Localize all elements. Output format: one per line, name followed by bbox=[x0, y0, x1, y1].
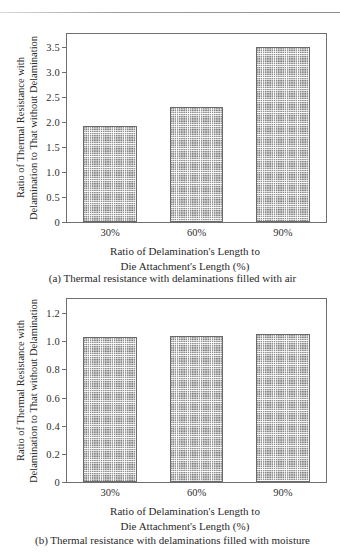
figure-a-plot-area: 00.51.01.52.02.53.03.530%60%90% bbox=[66, 33, 327, 223]
figure-b-plot-area: 00.20.40.60.81.01.230%60%90% bbox=[66, 298, 327, 483]
figure-a-x-tick-label: 30% bbox=[101, 227, 120, 238]
figure-b-bar-90pct bbox=[256, 334, 310, 483]
figure-b-y-axis-title-line1: Ratio of Thermal Resistance with bbox=[14, 290, 27, 492]
figure-b-y-tick bbox=[62, 426, 67, 427]
figure-b-y-tick-label: 0.8 bbox=[46, 364, 60, 375]
figure-a-y-tick bbox=[62, 122, 67, 123]
figure-b-x-axis-title-line2: Die Attachment's Length (%) bbox=[40, 519, 330, 534]
figure-a-y-tick-label: 1.0 bbox=[46, 166, 60, 177]
figure-a-y-tick-label: 0.5 bbox=[46, 191, 60, 202]
figure-a-y-tick bbox=[62, 72, 67, 73]
figure-page: Ratio of Thermal Resistance with Delamin… bbox=[0, 0, 340, 557]
figure-a-x-axis-title: Ratio of Delamination's Length to Die At… bbox=[40, 244, 330, 274]
figure-b-y-tick bbox=[62, 398, 67, 399]
figure-a-bar-30pct bbox=[83, 126, 137, 222]
figure-b: Ratio of Thermal Resistance with Delamin… bbox=[0, 280, 340, 557]
figure-a-y-tick bbox=[62, 197, 67, 198]
figure-a-y-tick bbox=[62, 222, 67, 223]
figure-b-y-tick bbox=[62, 482, 67, 483]
figure-b-bar-60pct bbox=[170, 336, 224, 482]
figure-b-y-tick-label: 1.2 bbox=[46, 308, 60, 319]
figure-a-y-axis-title-line2: Delamination to That without Delaminatio… bbox=[27, 24, 40, 232]
figure-a-y-tick-label: 2.0 bbox=[46, 116, 60, 127]
figure-a-y-axis-title-line1: Ratio of Thermal Resistance with bbox=[14, 24, 27, 232]
figure-b-y-tick-label: 0 bbox=[55, 477, 60, 488]
figure-b-y-tick bbox=[62, 369, 67, 370]
figure-b-y-tick bbox=[62, 341, 67, 342]
figure-a-bar-60pct bbox=[170, 107, 224, 222]
figure-b-x-tick-label: 30% bbox=[101, 487, 120, 498]
figure-b-bars bbox=[67, 299, 326, 482]
figure-b-x-tick-label: 60% bbox=[187, 487, 206, 498]
figure-a-y-tick bbox=[62, 147, 67, 148]
figure-a-y-tick bbox=[62, 97, 67, 98]
figure-b-y-tick bbox=[62, 313, 67, 314]
figure-b-y-tick-label: 0.2 bbox=[46, 448, 60, 459]
figure-a-x-tick-label: 90% bbox=[273, 227, 292, 238]
figure-a-y-tick-label: 3.0 bbox=[46, 66, 60, 77]
figure-a-x-tick-label: 60% bbox=[187, 227, 206, 238]
figure-a-y-tick-label: 2.5 bbox=[46, 91, 60, 102]
figure-a-y-tick-label: 0 bbox=[55, 217, 60, 228]
figure-a-bars bbox=[67, 34, 326, 222]
figure-b-x-axis-title-line1: Ratio of Delamination's Length to bbox=[40, 504, 330, 519]
figure-a-y-tick bbox=[62, 172, 67, 173]
figure-a-y-tick-label: 3.5 bbox=[46, 41, 60, 52]
figure-a-x-axis-title-line1: Ratio of Delamination's Length to bbox=[40, 244, 330, 259]
figure-b-x-tick-label: 90% bbox=[273, 487, 292, 498]
figure-b-y-tick-label: 0.4 bbox=[46, 420, 60, 431]
figure-a-y-tick bbox=[62, 47, 67, 48]
figure-b-y-axis-title-line2: Delamination to That without Delaminatio… bbox=[27, 290, 40, 492]
figure-b-bar-30pct bbox=[83, 337, 137, 482]
figure-b-y-tick bbox=[62, 454, 67, 455]
figure-b-y-tick-label: 1.0 bbox=[46, 336, 60, 347]
figure-b-y-tick-label: 0.6 bbox=[46, 392, 60, 403]
figure-b-caption: (b) Thermal resistance with delamination… bbox=[10, 534, 335, 546]
figure-b-y-axis-title: Ratio of Thermal Resistance with Delamin… bbox=[14, 290, 40, 492]
figure-a-y-axis-title: Ratio of Thermal Resistance with Delamin… bbox=[14, 24, 40, 232]
figure-a-bar-90pct bbox=[256, 47, 310, 222]
figure-a-y-tick-label: 1.5 bbox=[46, 141, 60, 152]
figure-a: Ratio of Thermal Resistance with Delamin… bbox=[0, 0, 340, 280]
figure-b-x-axis-title: Ratio of Delamination's Length to Die At… bbox=[40, 504, 330, 534]
